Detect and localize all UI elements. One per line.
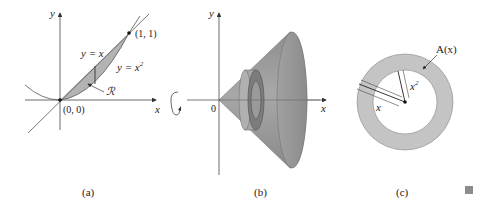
region-label: ℛ [106, 85, 116, 97]
point-1-1-label: (1, 1) [135, 28, 157, 40]
inner-radius-dim [403, 70, 409, 98]
outer-radius-label: x [375, 101, 381, 113]
inner-radius-label: x2 [409, 79, 419, 92]
point-origin-label: (0, 0) [63, 104, 85, 116]
y-axis-label-b: y [208, 7, 214, 19]
figure-canvas: y x y = x y = x2 (1, 1) (0, 0) ℛ (a) y 0… [0, 0, 478, 210]
panel-b: y 0 (b) [171, 7, 320, 199]
origin-label-b: 0 [211, 103, 216, 114]
x-axis-label: x [154, 103, 160, 115]
y-axis-label: y [49, 7, 55, 19]
end-mark [465, 186, 473, 194]
line-label: y = x [80, 47, 104, 59]
area-label: A(x) [436, 43, 457, 56]
region-pointer [88, 84, 104, 92]
x-axis-label-c: x [320, 102, 326, 114]
line-y-equals-x [28, 14, 149, 133]
panel-c: x A(x) x x2 (c) [320, 43, 457, 199]
rotation-arrowhead [178, 106, 181, 111]
rotation-arrow-icon [171, 92, 180, 115]
panel-a: y x y = x y = x2 (1, 1) (0, 0) ℛ (a) [25, 7, 160, 199]
point-1-1 [127, 31, 131, 35]
point-origin [58, 98, 62, 102]
caption-b: (b) [254, 186, 267, 199]
center-point [403, 100, 407, 104]
caption-a: (a) [82, 186, 95, 199]
parabola-label: y = x2 [116, 60, 144, 73]
caption-c: (c) [396, 186, 409, 199]
